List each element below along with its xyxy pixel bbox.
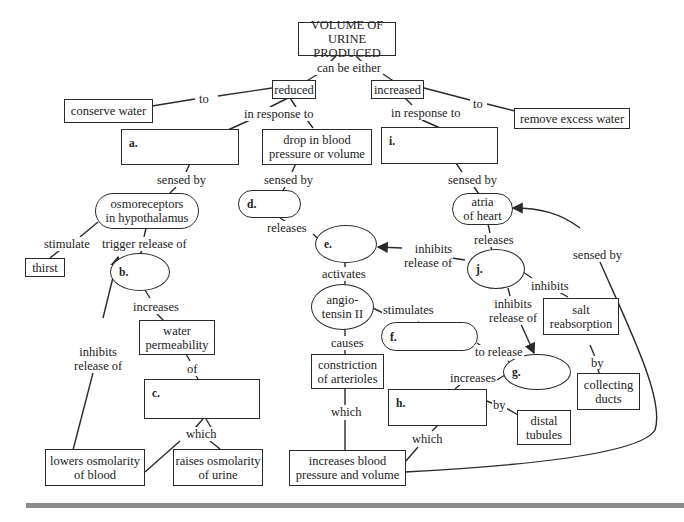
node-i: i. [381, 127, 498, 164]
collecting-ducts-node: collecting ducts [577, 373, 640, 410]
node-a-letter: a. [129, 136, 138, 150]
node-j-letter: j. [476, 262, 483, 276]
angiotensin-line2: tensin II [322, 307, 363, 321]
inhibits-b-line1: inhibits [74, 345, 122, 359]
remove-excess-water-label: remove excess water [520, 112, 624, 126]
atria-line1: atria [471, 195, 493, 209]
water-perm-line1: water [163, 324, 191, 338]
link-sensed-by-a: sensed by [156, 173, 207, 187]
lowers-osmolarity-node: lowers osmolarity of blood [45, 449, 145, 486]
reduced-node: reduced [272, 80, 316, 99]
node-g-letter: g. [512, 365, 521, 379]
inhibits-g-line2: release of [489, 311, 537, 325]
root-line1: VOLUME OF [311, 18, 384, 32]
node-e-letter: e. [324, 237, 332, 251]
node-d: d. [238, 190, 301, 218]
thirst-node: thirst [25, 258, 65, 277]
bottom-divider [26, 503, 684, 508]
conserve-water-node: conserve water [64, 99, 153, 123]
atria-node: atria of heart [452, 193, 513, 225]
link-sensed-by-i: sensed by [447, 173, 498, 187]
link-in-response-left: in response to [243, 107, 314, 121]
inhibits-b-line2: release of [74, 359, 122, 373]
node-b: b. [110, 253, 170, 291]
link-inhibits-release-g: inhibits release of [488, 297, 538, 325]
node-f-letter: f. [390, 330, 397, 344]
raises-osmolarity-node: raises osmolarity of urine [173, 449, 263, 486]
link-stimulates: stimulates [382, 303, 435, 317]
node-f: f. [381, 322, 478, 351]
link-releases-d: releases [266, 221, 308, 235]
distal-tubules-node: distal tubules [517, 410, 571, 445]
inhibits-e-line1: inhibits [404, 242, 452, 256]
root-line2: URINE PRODUCED [299, 32, 395, 60]
link-increases-b: increases [132, 300, 180, 314]
reduced-label: reduced [274, 83, 314, 97]
node-c-letter: c. [152, 386, 160, 400]
node-i-letter: i. [389, 134, 395, 148]
link-trigger-release: trigger release of [101, 237, 188, 251]
root-node: VOLUME OF URINE PRODUCED [298, 22, 396, 56]
constriction-line2: of arterioles [317, 372, 377, 386]
constriction-node: constriction of arterioles [311, 354, 384, 389]
osmoreceptors-node: osmoreceptors in hypothalamus [95, 193, 199, 229]
collecting-line2: ducts [595, 392, 621, 406]
inhibits-e-line2: release of [404, 256, 452, 270]
link-by-salt: by [590, 356, 605, 370]
distal-line1: distal [530, 414, 557, 428]
link-which-constriction: which [330, 405, 363, 419]
osmoreceptors-line1: osmoreceptors [111, 197, 184, 211]
water-permeability-node: water permeability [139, 320, 215, 355]
lowers-line1: lowers osmolarity [50, 454, 140, 468]
node-c: c. [144, 379, 260, 419]
node-g: g. [503, 354, 571, 390]
node-b-letter: b. [119, 265, 128, 279]
lowers-line2: of blood [74, 468, 116, 482]
increases-bp-line1: increases blood [309, 454, 386, 468]
angiotensin-node: angio- tensin II [311, 284, 374, 330]
distal-line2: tubules [526, 428, 562, 442]
constriction-line1: constriction [318, 358, 377, 372]
link-inhibits-j: inhibits [530, 279, 570, 293]
link-to-right: to [472, 97, 484, 111]
link-activates: activates [321, 267, 367, 281]
link-releases-atria: releases [473, 233, 515, 247]
link-which-c: which [185, 427, 218, 441]
link-sensed-by-drop: sensed by [263, 173, 314, 187]
water-perm-line2: permeability [145, 338, 208, 352]
increases-bp-node: increases blood pressure and volume [289, 450, 406, 486]
raises-line1: raises osmolarity [175, 454, 260, 468]
link-stimulate: stimulate [43, 237, 91, 251]
inhibits-g-line1: inhibits [489, 297, 537, 311]
link-can-be-either: can be either [316, 61, 382, 75]
osmoreceptors-line2: in hypothalamus [106, 211, 189, 225]
link-of: of [186, 362, 198, 376]
link-to-left: to [198, 92, 210, 106]
raises-line2: of urine [198, 468, 237, 482]
salt-line2: reabsorption [550, 317, 612, 331]
remove-excess-water-node: remove excess water [514, 108, 630, 129]
increased-label: increased [374, 83, 421, 97]
increased-node: increased [371, 80, 424, 99]
node-h-letter: h. [396, 396, 405, 410]
increases-bp-line2: pressure and volume [296, 468, 399, 482]
drop-bp-line1: drop in blood [283, 133, 350, 147]
node-h: h. [388, 389, 487, 426]
node-e: e. [315, 225, 377, 263]
link-causes: causes [330, 336, 365, 350]
link-inhibits-release-e: inhibits release of [403, 242, 453, 270]
drop-bp-line2: pressure or volume [269, 147, 365, 161]
link-in-response-right: in response to [390, 106, 461, 120]
thirst-label: thirst [32, 261, 58, 275]
collecting-line1: collecting [584, 378, 633, 392]
link-to-release: to release [474, 345, 524, 359]
node-a: a. [121, 129, 239, 165]
link-increases-g: increases [449, 371, 497, 385]
drop-bp-node: drop in blood pressure or volume [262, 129, 372, 165]
concept-map: VOLUME OF URINE PRODUCED reduced increas… [0, 0, 684, 522]
node-j: j. [467, 249, 525, 289]
link-sensed-by-loop: sensed by [572, 248, 623, 262]
link-inhibits-release-b: inhibits release of [73, 345, 123, 373]
angiotensin-line1: angio- [327, 293, 359, 307]
conserve-water-label: conserve water [71, 104, 146, 118]
